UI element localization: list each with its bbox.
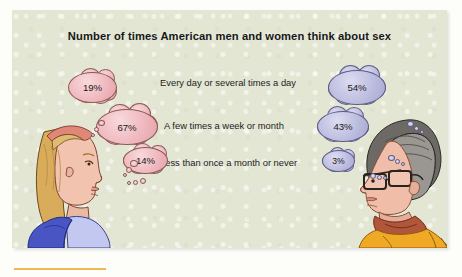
thought-bubble-men-less-than-once: 3% [322, 150, 355, 172]
infographic-panel: Number of times American men and women t… [12, 10, 447, 248]
value-label: 43% [333, 121, 352, 132]
thought-bubble-women-every-day: 19% [68, 72, 117, 103]
accent-rule [14, 268, 106, 270]
category-label-every-day: Every day or several times a day [160, 77, 296, 88]
value-label: 67% [117, 122, 136, 133]
category-label-few-times-week: A few times a week or month [164, 120, 284, 131]
thought-bubble-men-few-times: 43% [317, 111, 369, 142]
thought-bubble-men-every-day: 54% [328, 70, 386, 105]
value-label: 3% [332, 156, 344, 166]
value-label: 54% [347, 82, 366, 93]
thought-bubble-women-few-times: 67% [96, 109, 158, 145]
page-title: Number of times American men and women t… [12, 30, 447, 42]
category-label-less-than-once: Less than once a month or never [160, 157, 297, 168]
value-label: 14% [136, 155, 155, 166]
value-label: 19% [83, 82, 102, 93]
